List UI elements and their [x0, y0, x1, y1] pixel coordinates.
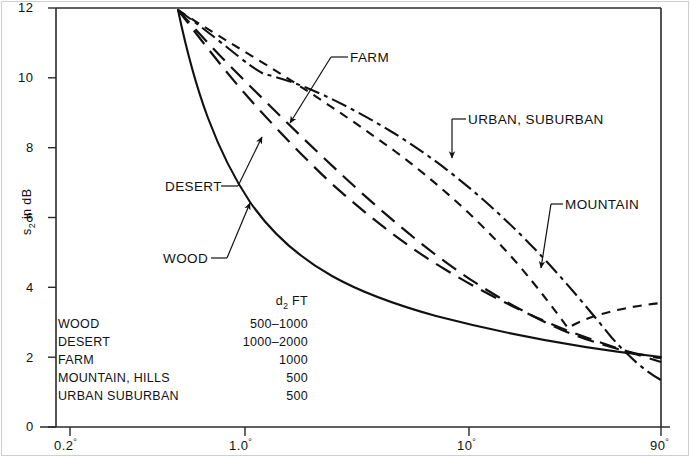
legend-row-mountain-hills: MOUNTAIN, HILLS 500	[58, 369, 308, 387]
label-mountain: MOUNTAIN	[565, 197, 639, 212]
label-farm: FARM	[350, 50, 389, 65]
x-tick-label-1-0deg: 1.0°	[229, 437, 252, 453]
legend-header-rest: FT	[288, 294, 308, 308]
legend-name-farm: FARM	[58, 351, 217, 369]
x-tick-2-num: 10	[457, 438, 472, 453]
legend-row-urban-suburban: URBAN SUBURBAN 500	[58, 387, 308, 405]
annotation-leaders	[211, 57, 563, 268]
x-tick-label-10deg: 10°	[457, 437, 476, 453]
legend-name-urban-suburban: URBAN SUBURBAN	[58, 387, 217, 405]
y-tick-label-2: 2	[26, 350, 34, 365]
legend-header-base: d	[276, 294, 283, 308]
legend-value-urban-suburban: 500	[217, 387, 308, 405]
label-desert: DESERT	[165, 179, 222, 194]
legend-header-spacer	[58, 292, 217, 315]
x-tick-label-90deg: 90°	[650, 437, 669, 453]
legend-value-farm: 1000	[217, 351, 308, 369]
x-tick-0-num: 0.2	[54, 438, 73, 453]
x-tick-1-deg: °	[248, 437, 252, 447]
legend-value-mountain-hills: 500	[217, 369, 308, 387]
legend-header-d2ft: d2 FT	[217, 292, 308, 315]
x-tick-3-num: 90	[650, 438, 665, 453]
legend-name-mountain-hills: MOUNTAIN, HILLS	[58, 369, 217, 387]
y-tick-label-10: 10	[18, 70, 33, 85]
legend-row-farm: FARM 1000	[58, 351, 308, 369]
legend-value-desert: 1000–2000	[217, 333, 308, 351]
y-tick-label-12: 12	[18, 0, 33, 15]
x-tick-marks	[70, 427, 661, 436]
y-axis-title-base: s	[20, 228, 34, 235]
y-tick-label-6: 6	[26, 210, 34, 225]
y-tick-label-0: 0	[26, 419, 34, 434]
y-tick-marks	[48, 8, 56, 427]
label-urban-suburban: URBAN, SUBURBAN	[468, 112, 604, 127]
x-tick-3-deg: °	[665, 437, 669, 447]
legend-table: d2 FT WOOD 500–1000 DESERT 1000–2000 FAR…	[58, 292, 308, 405]
x-tick-0-deg: °	[73, 437, 77, 447]
legend-row-wood: WOOD 500–1000	[58, 315, 308, 333]
y-tick-label-4: 4	[26, 280, 34, 295]
label-wood: WOOD	[163, 251, 208, 266]
x-tick-1-num: 1.0	[229, 438, 248, 453]
legend-row-desert: DESERT 1000–2000	[58, 333, 308, 351]
chart-figure: s2 in dB 12 10 8 6 4 2 0 0.2° 1.0° 10° 9…	[0, 0, 691, 458]
legend-name-desert: DESERT	[58, 333, 217, 351]
x-tick-2-deg: °	[472, 437, 476, 447]
x-tick-label-0-2deg: 0.2°	[54, 437, 77, 453]
legend-grid: d2 FT WOOD 500–1000 DESERT 1000–2000 FAR…	[58, 292, 308, 405]
legend-name-wood: WOOD	[58, 315, 217, 333]
y-tick-label-8: 8	[26, 140, 34, 155]
legend-value-wood: 500–1000	[217, 315, 308, 333]
legend-header-row: d2 FT	[58, 292, 308, 315]
series-urban-suburban	[178, 10, 661, 328]
